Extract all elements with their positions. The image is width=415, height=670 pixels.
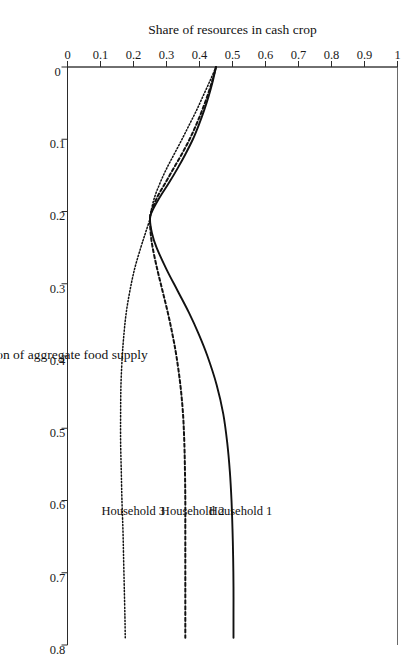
series-label-3: Household 3 bbox=[101, 504, 165, 518]
x-tick-label: 0.6 bbox=[49, 498, 65, 512]
chart-figure: 00.10.20.30.40.50.60.70.800.10.20.30.40.… bbox=[0, 0, 415, 670]
y-axis-title: Share of resources in cash crop bbox=[148, 22, 317, 37]
axis-titles-group: Coefficient of variation of aggregate fo… bbox=[0, 22, 316, 362]
rotated-plot-wrapper: 00.10.20.30.40.50.60.70.800.10.20.30.40.… bbox=[0, 0, 415, 670]
y-tick-label: 0 bbox=[64, 48, 70, 62]
y-tick-label: 1 bbox=[394, 48, 400, 62]
y-tick-label: 0.2 bbox=[125, 48, 141, 62]
x-tick-label: 0.5 bbox=[49, 426, 65, 440]
x-axis-title: Coefficient of variation of aggregate fo… bbox=[0, 347, 147, 362]
line-chart-svg: 00.10.20.30.40.50.60.70.800.10.20.30.40.… bbox=[0, 0, 415, 670]
x-tick-label: 0.2 bbox=[49, 209, 65, 223]
x-tick-label: 0.7 bbox=[49, 571, 65, 585]
x-tick-label: 0.1 bbox=[49, 137, 65, 151]
y-tick-label: 0.6 bbox=[257, 48, 273, 62]
y-tick-label: 0.7 bbox=[290, 48, 306, 62]
series-curve-1 bbox=[150, 67, 234, 638]
y-tick-label: 0.4 bbox=[191, 48, 207, 62]
y-tick-label: 0.9 bbox=[356, 48, 372, 62]
x-tick-label: 0.3 bbox=[49, 282, 65, 296]
x-tick-label: 0 bbox=[54, 65, 60, 79]
series-label-2: Household 2 bbox=[160, 504, 224, 518]
y-tick-label: 0.5 bbox=[224, 48, 240, 62]
y-tick-label: 0.3 bbox=[158, 48, 174, 62]
y-tick-label: 0.1 bbox=[92, 48, 108, 62]
y-tick-label: 0.8 bbox=[323, 48, 339, 62]
x-tick-label: 0.8 bbox=[49, 643, 65, 657]
series-labels-group: Household 1Household 2Household 3 bbox=[101, 504, 272, 518]
